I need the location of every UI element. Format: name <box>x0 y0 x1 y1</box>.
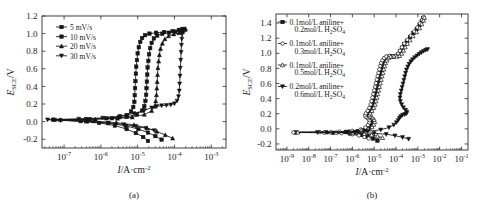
data-marker <box>148 46 152 50</box>
data-marker <box>137 45 141 49</box>
x-tick-label: 10-6 <box>94 150 108 161</box>
data-marker <box>376 139 380 143</box>
data-marker <box>371 96 375 100</box>
data-marker <box>179 58 183 62</box>
panel-a-plot: 10-710-610-510-410-3-0.20.00.20.40.60.81… <box>0 0 240 207</box>
data-marker <box>369 103 373 107</box>
y-tick-label: 0.6 <box>260 79 272 89</box>
legend-label: 20 mV/s <box>70 42 96 51</box>
data-marker <box>134 72 138 76</box>
legend-marker <box>60 35 64 39</box>
data-marker <box>156 73 160 77</box>
data-marker <box>132 105 136 109</box>
panel-a: 10-710-610-510-410-3-0.20.00.20.40.60.81… <box>0 0 240 207</box>
panel-b-plot: 10-910-810-710-610-510-410-310-210-1-0.2… <box>240 0 480 207</box>
x-tick-label: 10-1 <box>454 152 468 163</box>
x-tick-label: 10-3 <box>204 150 218 161</box>
data-marker <box>155 34 159 38</box>
legend-marker <box>281 20 285 24</box>
data-series <box>45 27 185 132</box>
x-tick-label: 10-3 <box>411 152 425 163</box>
data-marker <box>357 134 361 138</box>
legend-label-line2: 0.5mol/L H2SO4 <box>295 68 346 78</box>
svg-text:I/A·cm-2: I/A·cm-2 <box>117 164 151 175</box>
svg-text:ESCE/V: ESCE/V <box>242 68 253 96</box>
data-marker <box>134 65 138 69</box>
svg-text:ESCE/V: ESCE/V <box>6 68 17 96</box>
x-tick-label: 10-4 <box>167 150 181 161</box>
legend-label: 10 mV/s <box>70 33 96 42</box>
data-marker <box>145 86 149 90</box>
data-marker <box>133 86 137 90</box>
data-marker <box>407 137 411 141</box>
x-tick-label: 10-7 <box>57 150 71 161</box>
data-marker <box>144 99 148 103</box>
y-tick-label: 0.0 <box>260 124 272 134</box>
y-tick-label: 0.0 <box>26 117 38 127</box>
data-marker <box>179 50 183 54</box>
data-marker <box>144 93 148 97</box>
data-marker <box>378 68 382 72</box>
legend: 5 mV/s10 mV/s20 mV/s30 mV/s <box>56 23 96 61</box>
x-tick-label: 10-8 <box>302 152 316 163</box>
data-marker <box>178 82 182 86</box>
data-marker <box>156 66 160 70</box>
data-marker <box>134 131 138 135</box>
data-marker <box>371 137 375 141</box>
data-marker <box>157 59 161 63</box>
y-tick-label: 0.2 <box>26 99 37 109</box>
polarization-curve-figure: 10-710-610-510-410-3-0.20.00.20.40.60.81… <box>0 0 480 207</box>
data-marker <box>377 71 381 75</box>
data-marker <box>125 115 129 119</box>
y-tick-label: 1.2 <box>260 33 271 43</box>
y-tick-label: 1.4 <box>260 18 272 28</box>
y-axis-title: ESCE/V <box>242 68 253 96</box>
data-marker <box>139 40 143 44</box>
svg-text:I/A·cm-2: I/A·cm-2 <box>355 166 389 177</box>
data-marker <box>179 43 183 47</box>
data-marker <box>145 80 149 84</box>
y-tick-label: 1.0 <box>26 29 38 39</box>
x-axis-title: I/A·cm-2 <box>117 164 151 175</box>
y-tick-label: 0.6 <box>26 64 38 74</box>
data-marker <box>392 123 396 127</box>
data-marker <box>375 78 379 82</box>
y-tick-label: 0.4 <box>260 94 272 104</box>
data-marker <box>143 104 147 108</box>
data-marker <box>146 131 150 135</box>
data-marker <box>136 52 140 56</box>
data-marker <box>147 59 151 63</box>
data-marker <box>137 127 141 131</box>
panel-b: 10-910-810-710-610-510-410-310-210-1-0.2… <box>240 0 480 207</box>
data-marker <box>143 33 147 37</box>
data-marker <box>368 106 372 110</box>
x-tick-label: 10-2 <box>433 152 447 163</box>
data-marker <box>125 127 129 131</box>
legend-label-line2: 0.3mol/L H2SO4 <box>295 47 346 57</box>
data-marker <box>157 53 161 57</box>
data-marker <box>180 37 184 41</box>
data-marker <box>154 99 158 103</box>
data-marker <box>147 53 151 57</box>
data-marker <box>135 58 139 62</box>
data-marker <box>154 93 158 97</box>
data-marker <box>161 32 165 36</box>
data-marker <box>145 73 149 77</box>
data-marker <box>141 135 145 139</box>
y-tick-label: 1.2 <box>26 11 37 21</box>
y-tick-label: 0.4 <box>26 82 38 92</box>
x-tick-label: 10-9 <box>280 152 294 163</box>
data-marker <box>158 47 162 51</box>
x-tick-label: 10-7 <box>323 152 337 163</box>
x-tick-label: 10-5 <box>131 150 145 161</box>
data-marker <box>133 100 137 104</box>
y-tick-label: -0.2 <box>23 134 37 144</box>
data-marker <box>367 137 371 141</box>
y-tick-label: 0.8 <box>260 64 272 74</box>
legend-marker <box>281 42 285 46</box>
data-marker <box>134 79 138 83</box>
y-axis-title: ESCE/V <box>6 68 17 96</box>
data-marker <box>146 139 150 143</box>
data-marker <box>177 89 181 93</box>
legend: 0.1mol/L aniline+0.2mol/L H2SO40.1mol/L … <box>278 18 345 100</box>
